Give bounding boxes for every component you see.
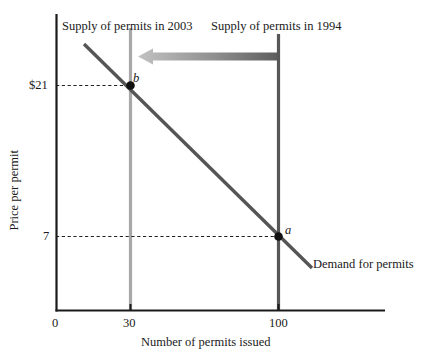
demand-curve-label: Demand for permits bbox=[313, 258, 414, 271]
data-point-a bbox=[274, 232, 283, 241]
x-axis-tick-label-0: 0 bbox=[52, 317, 58, 330]
data-point-a-label: a bbox=[285, 224, 291, 237]
x-axis-tick-label-100: 100 bbox=[269, 317, 288, 330]
supply-1994-label: Supply of permits in 1994 bbox=[211, 20, 342, 33]
x-axis-title: Number of permits issued bbox=[141, 336, 271, 349]
supply-demand-chart: Supply of permits in 2003 Supply of perm… bbox=[0, 0, 435, 364]
supply-2003-label: Supply of permits in 2003 bbox=[62, 20, 193, 33]
chart-canvas bbox=[0, 0, 435, 364]
y-axis-tick-label-7: 7 bbox=[43, 230, 49, 243]
data-point-b-label: b bbox=[133, 72, 139, 85]
y-axis-tick-label-21: $21 bbox=[29, 79, 48, 92]
y-axis-title: Price per permit bbox=[8, 150, 21, 231]
x-axis-tick-label-30: 30 bbox=[123, 317, 136, 330]
shift-arrow-icon bbox=[138, 49, 277, 65]
